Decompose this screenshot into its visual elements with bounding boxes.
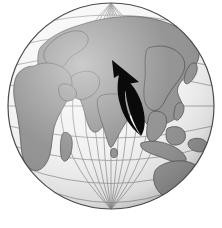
globe-shading: [8, 3, 214, 209]
globe-illustration: [0, 0, 222, 228]
globe-figure: World globe with directional arrow: [0, 0, 222, 228]
